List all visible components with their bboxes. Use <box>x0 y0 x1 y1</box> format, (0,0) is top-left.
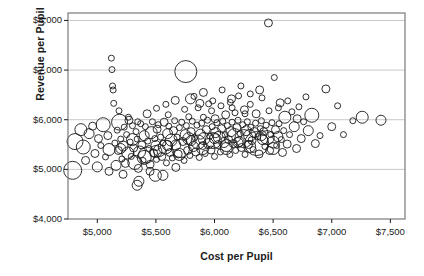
y-tick-label: $4,000 <box>4 213 62 224</box>
x-tick-label: $5,500 <box>126 226 186 237</box>
data-points <box>64 19 386 190</box>
x-tick-label: $7,500 <box>360 226 420 237</box>
x-tick-label: $5,000 <box>67 226 127 237</box>
x-tick-label: $6,500 <box>243 226 303 237</box>
axis-ticks <box>64 20 390 223</box>
x-axis-title: Cost per Pupil <box>68 250 405 262</box>
bubble-chart: Revenue per Pupil Cost per Pupil $4,000$… <box>0 0 424 276</box>
y-tick-label: $8,000 <box>4 14 62 25</box>
y-tick-label: $5,000 <box>4 163 62 174</box>
x-tick-label: $6,000 <box>185 226 245 237</box>
x-tick-label: $7,000 <box>302 226 362 237</box>
y-tick-label: $7,000 <box>4 64 62 75</box>
plot-frame <box>68 13 405 219</box>
y-tick-label: $6,000 <box>4 114 62 125</box>
